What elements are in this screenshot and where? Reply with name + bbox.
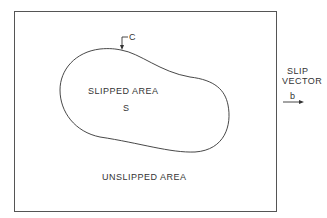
curve-pointer-arrowhead [120,45,124,50]
slip-vector-label-line2: VECTOR [282,76,322,86]
burgers-vector-label: b [290,91,296,101]
slip-vector-label-line1: SLIP [287,66,309,76]
curve-label: C [129,32,136,42]
slip-vector-arrowhead [299,100,304,104]
diagram-canvas [0,0,327,218]
unslipped-area-label: UNSLIPPED AREA [102,172,187,182]
slipped-area-label: SLIPPED AREA [88,86,159,96]
slipped-area-symbol: S [123,103,130,113]
slip-boundary-curve [60,49,229,152]
